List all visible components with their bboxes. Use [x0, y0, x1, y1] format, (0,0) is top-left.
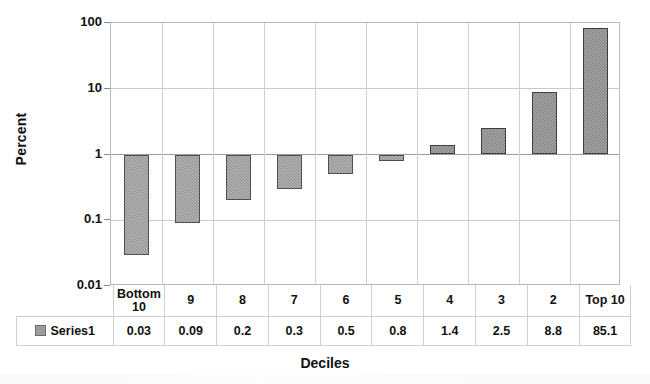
- legend-entry: Series1: [17, 317, 114, 346]
- table-value-cell: 0.5: [320, 317, 372, 346]
- category-separator: [468, 23, 469, 284]
- category-separator: [315, 23, 316, 284]
- y-axis-tick-label: 100: [38, 14, 102, 29]
- y-axis-tick-label: 0.1: [38, 211, 102, 226]
- data-table: Bottom 1098765432Top 10 Series1 0.030.09…: [16, 285, 620, 345]
- table-header-cell: 3: [476, 285, 528, 317]
- bar: [328, 155, 354, 175]
- table-value-cell: 0.3: [268, 317, 320, 346]
- bar: [226, 155, 252, 201]
- table-header-cell: Bottom 10: [113, 285, 165, 317]
- bar: [583, 28, 609, 155]
- table-value-cell: 85.1: [579, 317, 631, 346]
- table-header-cell: 8: [217, 285, 269, 317]
- legend-label: Series1: [51, 324, 95, 338]
- y-axis-tick-label: 10: [38, 80, 102, 95]
- bar: [124, 155, 150, 255]
- category-separator: [366, 23, 367, 284]
- plot-area: [110, 22, 620, 285]
- bar: [379, 155, 405, 161]
- category-separator: [519, 23, 520, 284]
- table-value-cell: 0.8: [372, 317, 424, 346]
- category-separator: [162, 23, 163, 284]
- table-corner-cell: [17, 285, 114, 317]
- table-value-cell: 0.03: [113, 317, 165, 346]
- y-axis-title: Percent: [13, 79, 35, 199]
- table-header-cell: 4: [424, 285, 476, 317]
- table-header-row: Bottom 1098765432Top 10: [17, 285, 631, 317]
- table-value-cell: 2.5: [476, 317, 528, 346]
- gridline-y: [111, 23, 619, 24]
- bar: [481, 128, 507, 154]
- scan-artifact: [0, 374, 650, 384]
- table-header-cell: 6: [320, 285, 372, 317]
- table-value-cell: 1.4: [424, 317, 476, 346]
- table-value-cell: 0.09: [165, 317, 217, 346]
- table-value-cell: 0.2: [217, 317, 269, 346]
- bar: [277, 155, 303, 189]
- chart-figure: Percent 1001010.10.01 Bottom 1098765432T…: [0, 0, 650, 384]
- gridline-y: [111, 88, 619, 89]
- category-separator: [264, 23, 265, 284]
- table-header-cell: 5: [372, 285, 424, 317]
- table-data-row: Series1 0.030.090.20.30.50.81.42.58.885.…: [17, 317, 631, 346]
- bar: [175, 155, 201, 224]
- table-value-cell: 8.8: [527, 317, 579, 346]
- series-color-swatch: [35, 325, 46, 336]
- table-header-cell: Top 10: [579, 285, 631, 317]
- table-header-cell: 2: [527, 285, 579, 317]
- table-header-cell: 7: [268, 285, 320, 317]
- bar: [532, 92, 558, 154]
- x-axis-title: Deciles: [0, 355, 650, 371]
- y-axis-tick-label: 1: [38, 146, 102, 161]
- table-header-cell: 9: [165, 285, 217, 317]
- category-separator: [213, 23, 214, 284]
- bar: [430, 145, 456, 155]
- category-separator: [417, 23, 418, 284]
- category-separator: [570, 23, 571, 284]
